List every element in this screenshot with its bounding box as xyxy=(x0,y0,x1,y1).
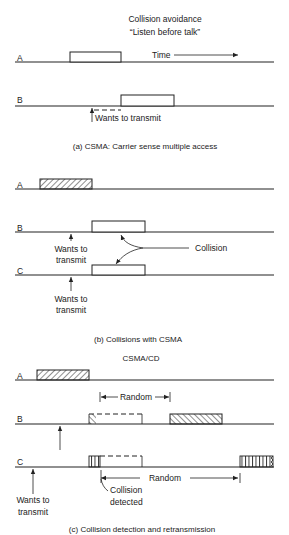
collision-detected-line1: Collision xyxy=(110,485,142,495)
panel-a-title-line2: “Listen before talk” xyxy=(130,27,201,37)
station-c-label: C xyxy=(17,457,23,467)
wants-c-line1: Wants to xyxy=(54,294,87,304)
panel-c-title: CSMA/CD xyxy=(123,354,160,363)
panel-b-caption: (b) Collisions with CSMA xyxy=(94,335,183,344)
panel-a-csma: Collision avoidance “Listen before talk”… xyxy=(15,14,274,151)
csma-diagram: Collision avoidance “Listen before talk”… xyxy=(0,0,289,535)
station-b-retransmit-frame xyxy=(170,414,222,424)
time-label: Time xyxy=(152,50,171,60)
wants-c-line2: transmit xyxy=(56,305,87,315)
station-c-frame xyxy=(92,265,145,275)
panel-a-title-line1: Collision avoidance xyxy=(128,14,202,24)
station-a-hatched-frame xyxy=(40,179,92,189)
collision-arrow-b-icon xyxy=(121,235,143,248)
collision-label: Collision xyxy=(195,243,227,253)
station-b-label: B xyxy=(17,95,23,105)
station-b-partial-frame xyxy=(89,414,96,424)
wants-b-line1: Wants to xyxy=(54,244,87,254)
panel-c-caption: (c) Collision detection and retransmissi… xyxy=(69,525,215,534)
station-b-label: B xyxy=(17,414,23,424)
wants-to-transmit-label: Wants to transmit xyxy=(95,113,161,123)
station-b-frame xyxy=(121,95,174,106)
collision-detected-line2: detected xyxy=(110,497,143,507)
station-b-frame xyxy=(92,221,145,232)
random-c-label: Random xyxy=(149,473,181,483)
random-b-label: Random xyxy=(120,392,152,402)
wants-c-line2: transmit xyxy=(18,507,49,517)
station-c-partial-frame xyxy=(89,456,100,467)
collision-detected-pointer xyxy=(101,479,108,491)
collision-arrow-c-icon xyxy=(116,248,143,264)
station-a-frame xyxy=(70,52,121,62)
panel-a-caption: (a) CSMA: Carrier sense multiple access xyxy=(73,142,217,151)
wants-b-line2: transmit xyxy=(56,255,87,265)
panel-c-csma-cd: CSMA/CD A Random B C Random xyxy=(15,354,274,534)
station-c-retransmit-frame xyxy=(240,456,273,467)
wants-c-line1: Wants to xyxy=(16,495,49,505)
panel-b-collisions: A B Wants to transmit Collision C Wants … xyxy=(15,179,274,344)
station-a-hatched-frame xyxy=(37,370,89,380)
